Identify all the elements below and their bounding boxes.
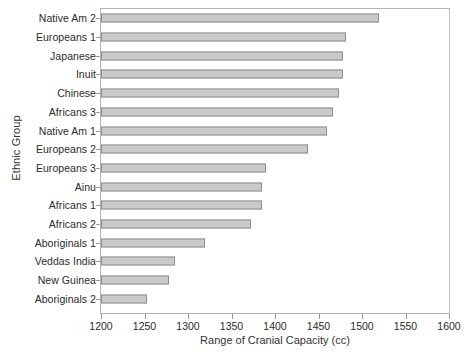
category-label: Veddas India	[35, 255, 96, 267]
y-axis-tick	[96, 168, 100, 169]
x-axis-tick	[406, 314, 407, 319]
bar	[101, 51, 343, 60]
y-axis-tick	[96, 149, 100, 150]
bar	[101, 33, 346, 42]
x-axis-tick	[232, 314, 233, 319]
y-axis-tick	[96, 280, 100, 281]
y-axis-tick	[96, 299, 100, 300]
x-axis-tick	[449, 314, 450, 319]
bar-row: Africans 3	[0, 103, 470, 122]
category-label: Inuit	[76, 68, 96, 80]
category-label: Native Am 2	[39, 12, 96, 24]
y-axis-tick	[96, 56, 100, 57]
bar-row: Europeans 3	[0, 159, 470, 178]
category-label: Chinese	[57, 87, 96, 99]
bar	[101, 107, 333, 116]
bar-row: Ainu	[0, 177, 470, 196]
y-axis-tick	[96, 205, 100, 206]
y-axis-tick	[96, 131, 100, 132]
bar	[101, 182, 262, 191]
bar	[101, 238, 205, 247]
category-label: New Guinea	[38, 274, 96, 286]
x-axis-tick	[362, 314, 363, 319]
y-axis-tick	[96, 112, 100, 113]
y-axis-tick	[96, 37, 100, 38]
bar-row: Europeans 2	[0, 140, 470, 159]
category-label: Africans 3	[49, 106, 96, 118]
bar	[101, 70, 343, 79]
category-label: Japanese	[50, 50, 96, 62]
category-label: Europeans 1	[36, 31, 96, 43]
y-axis-tick	[96, 224, 100, 225]
bar	[101, 89, 339, 98]
x-axis-tick	[319, 314, 320, 319]
cranial-capacity-bar-chart: Ethnic Group Native Am 2Europeans 1Japan…	[0, 0, 470, 354]
x-axis-tick	[101, 314, 102, 319]
y-axis-tick	[96, 18, 100, 19]
x-axis-title: Range of Cranial Capacity (cc)	[100, 334, 450, 346]
category-label: Africans 2	[49, 218, 96, 230]
bar-row: Japanese	[0, 46, 470, 65]
category-label: Africans 1	[49, 199, 96, 211]
bar	[101, 294, 147, 303]
category-label: Ainu	[75, 181, 96, 193]
bar	[101, 145, 308, 154]
y-axis-tick	[96, 74, 100, 75]
category-label: Europeans 2	[36, 143, 96, 155]
category-label: Native Am 1	[39, 125, 96, 137]
category-label: Europeans 3	[36, 162, 96, 174]
bar-row: Native Am 2	[0, 9, 470, 28]
bar	[101, 163, 266, 172]
bar	[101, 126, 327, 135]
bar-row: Africans 1	[0, 196, 470, 215]
bar	[101, 220, 251, 229]
y-axis-tick	[96, 261, 100, 262]
bar	[101, 14, 379, 23]
y-axis-tick	[96, 93, 100, 94]
bar-row: Europeans 1	[0, 28, 470, 47]
bar-row: New Guinea	[0, 271, 470, 290]
x-axis-tick	[188, 314, 189, 319]
bar-row: Africans 2	[0, 215, 470, 234]
bar-row: Veddas India	[0, 252, 470, 271]
bar-row: Native Am 1	[0, 121, 470, 140]
y-axis-tick	[96, 243, 100, 244]
x-axis-tick	[145, 314, 146, 319]
y-axis-tick	[96, 187, 100, 188]
bar	[101, 257, 175, 266]
bar	[101, 201, 262, 210]
category-label: Aboriginals 1	[35, 237, 96, 249]
bar-row: Aboriginals 1	[0, 233, 470, 252]
bar-row: Aboriginals 2	[0, 290, 470, 309]
x-axis-tick	[275, 314, 276, 319]
bar-row: Chinese	[0, 84, 470, 103]
bar-row: Inuit	[0, 65, 470, 84]
category-label: Aboriginals 2	[35, 293, 96, 305]
bar	[101, 276, 169, 285]
x-axis-tick-label: 1600	[419, 320, 470, 332]
